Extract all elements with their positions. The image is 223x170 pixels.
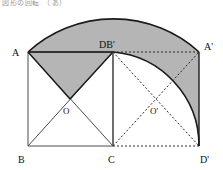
geometry-diagram-svg: A DB' A' O O' B C D': [0, 0, 223, 170]
label-A: A: [12, 47, 20, 58]
label-D-prime: D': [200, 154, 209, 165]
figure-canvas: 図形の回転 （あ）（い）: [0, 0, 223, 170]
label-A-prime: A': [204, 41, 213, 52]
label-O-prime: O': [150, 106, 158, 116]
label-O: O: [63, 106, 70, 116]
label-DB-prime: DB': [99, 39, 115, 50]
label-C: C: [108, 154, 115, 165]
label-B: B: [18, 154, 25, 165]
